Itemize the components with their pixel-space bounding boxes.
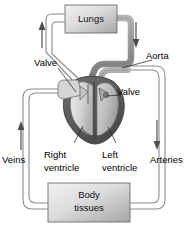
lungs-box: Lungs: [65, 5, 117, 33]
diagram-canvas: Lungs Body tissues: [0, 0, 190, 225]
left-ventricle-label-line2: ventricle: [102, 162, 137, 173]
left-ventricle-label-line1: Left: [102, 149, 118, 160]
valve-left-label: Valve: [34, 57, 57, 68]
body-tissues-box: Body tissues: [48, 183, 130, 222]
heart-organ: [58, 76, 124, 144]
veins-label: Veins: [2, 154, 25, 165]
body-tissues-label-line2: tissues: [74, 202, 104, 213]
lungs-label: Lungs: [78, 13, 104, 24]
right-atrium: [58, 80, 82, 99]
circulation-diagram: Lungs Body tissues: [0, 0, 190, 225]
right-ventricle-label-line2: ventricle: [44, 162, 79, 173]
aorta-label: Aorta: [146, 50, 169, 61]
body-tissues-label-line1: Body: [78, 189, 100, 200]
right-ventricle-label-line1: Right: [44, 149, 67, 160]
arrow-pulmonary-vein-up: [39, 21, 46, 48]
arteries-label: Arteries: [150, 154, 183, 165]
valve-right-label: Valve: [117, 86, 140, 97]
